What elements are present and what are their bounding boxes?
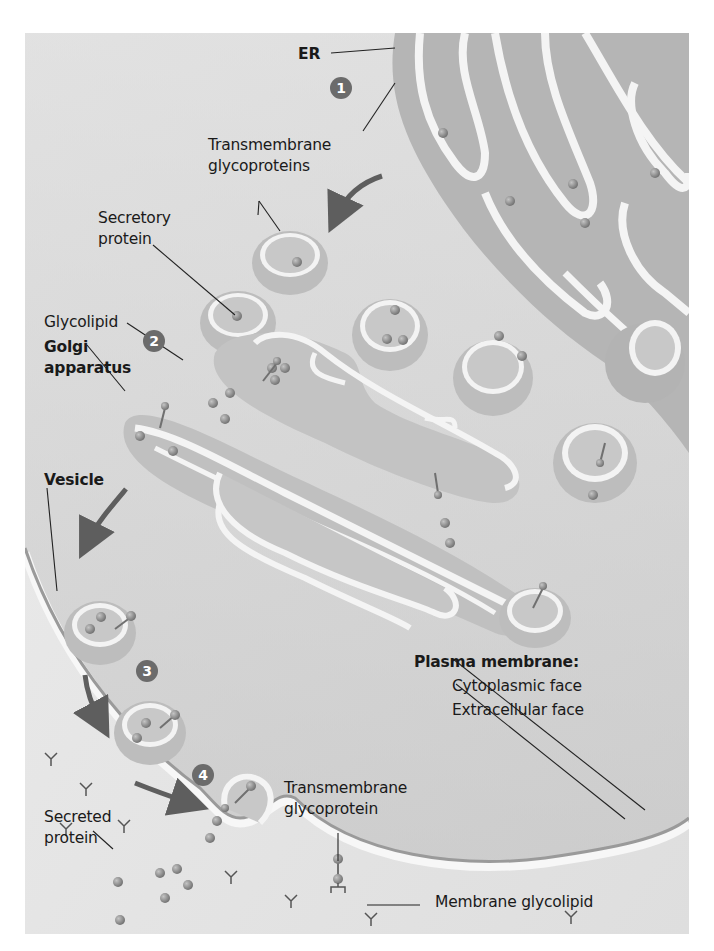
label-transmembrane-glycoprotein-line1: Transmembrane [284,779,407,798]
label-cytoplasmic-face: Cytoplasmic face [452,677,582,696]
label-secretory-protein-line2: protein [98,230,152,249]
label-glycolipid: Glycolipid [44,313,118,332]
step-badge-2: 2 [143,330,165,352]
label-extracellular-face: Extracellular face [452,701,584,720]
label-transmembrane-glycoproteins-line1: Transmembrane [208,136,331,155]
label-golgi-line2: apparatus [44,359,131,378]
step-badge-3: 3 [136,660,158,682]
label-transmembrane-glycoproteins-line2: glycoproteins [208,157,310,176]
figure-panel: ER Transmembrane glycoproteins Secretory… [25,33,689,934]
step-badge-4: 4 [192,764,214,786]
label-transmembrane-glycoprotein-line2: glycoprotein [284,800,378,819]
label-plasma-membrane: Plasma membrane: [414,653,579,672]
label-secreted-protein-line1: Secreted [44,808,111,827]
illustration [25,33,689,934]
step-badge-1: 1 [330,77,352,99]
label-membrane-glycolipid: Membrane glycolipid [435,893,593,912]
label-secreted-protein-line2: protein [44,829,98,848]
label-secretory-protein-line1: Secretory [98,209,171,228]
label-er: ER [298,45,320,64]
label-golgi-line1: Golgi [44,338,88,357]
label-vesicle: Vesicle [44,471,104,490]
